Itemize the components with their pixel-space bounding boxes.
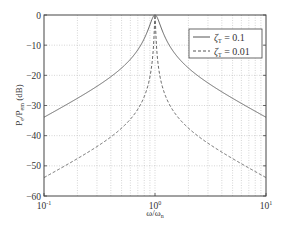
x-tick-label: 101 <box>260 200 273 211</box>
y-tick-label: −50 <box>26 161 41 171</box>
y-tick-label: −60 <box>26 192 41 202</box>
y-tick-label: −20 <box>26 71 41 81</box>
y-tick-label: −30 <box>26 101 41 111</box>
x-tick-label: 10-1 <box>37 200 52 211</box>
y-tick-label: −40 <box>26 131 41 141</box>
x-axis-label: ω/ωn <box>146 208 163 219</box>
y-tick-label: 0 <box>36 11 41 21</box>
y-axis-label: Pe/Pem (dB) <box>14 84 25 125</box>
legend: ζT = 0.1 ζT = 0.01 <box>189 29 262 58</box>
chart: 0−10−20−30−40−50−60 10-1100101 ω/ωn Pe/P… <box>0 0 284 229</box>
y-tick-label: −10 <box>26 41 41 51</box>
